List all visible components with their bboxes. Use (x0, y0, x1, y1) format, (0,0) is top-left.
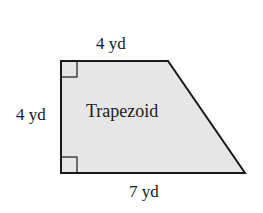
bottom-base-label: 7 yd (129, 183, 159, 200)
shape-name-label: Trapezoid (86, 102, 158, 120)
top-base-label: 4 yd (96, 35, 126, 52)
trapezoid-diagram: 4 yd 4 yd Trapezoid 7 yd (0, 0, 263, 213)
height-label: 4 yd (16, 106, 46, 123)
